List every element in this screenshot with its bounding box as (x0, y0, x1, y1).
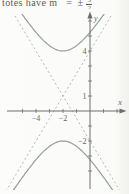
asymptote-line (5, 12, 113, 192)
textbook-figure: totes have m = ± 3 2 −4−214−2xy (0, 0, 129, 194)
hyperbola-plot: −4−214−2xy (0, 0, 129, 194)
y-tick-label: −2 (78, 137, 87, 146)
x-axis-label: x (117, 98, 122, 107)
y-axis-label: y (93, 14, 98, 23)
y-tick-label: 1 (83, 92, 87, 101)
asymptote-line (13, 12, 121, 192)
hyperbola-lower-branch (12, 141, 115, 193)
y-tick-label: 4 (83, 47, 87, 56)
x-tick-label: −2 (59, 114, 68, 123)
x-tick-label: −4 (32, 114, 41, 123)
hyperbola-upper-branch (12, 0, 115, 51)
x-axis-arrow-icon (120, 108, 127, 113)
y-axis-arrow-icon (87, 12, 92, 19)
